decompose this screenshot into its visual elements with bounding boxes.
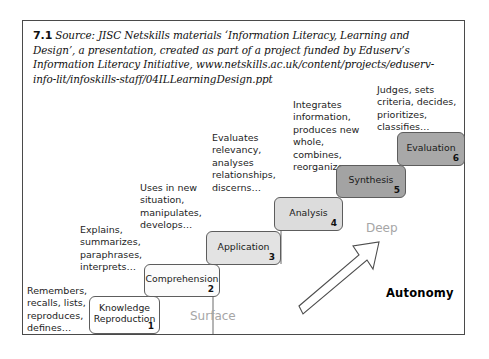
blooms-taxonomy-staircase-diagram: Remembers, recalls, lists, reproduces, d… <box>23 21 466 336</box>
step-box-synthesis[interactable]: Synthesis 5 <box>336 165 406 198</box>
step-number-4: 4 <box>331 218 337 229</box>
figure-frame: 7.1Source: JISC Netskills materials ‘Inf… <box>22 20 465 335</box>
step-label-application: Application <box>218 241 270 252</box>
step-label-comprehension: Comprehension <box>146 273 219 284</box>
region-label-surface: Surface <box>190 309 236 323</box>
step-number-5: 5 <box>394 185 400 196</box>
step-number-2: 2 <box>208 284 214 295</box>
step-number-6: 6 <box>453 153 459 164</box>
step-box-application[interactable]: Application 3 <box>206 231 281 265</box>
step-label-synthesis: Synthesis <box>349 174 394 185</box>
step-number-3: 3 <box>269 252 275 263</box>
autonomy-arrow-icon <box>295 236 395 321</box>
step-number-1: 1 <box>148 321 154 332</box>
step-box-comprehension[interactable]: Comprehension 2 <box>144 264 220 297</box>
region-label-deep: Deep <box>366 221 398 235</box>
step-box-knowledge-reproduction[interactable]: Knowledge Reproduction 1 <box>89 296 160 334</box>
step-box-analysis[interactable]: Analysis 4 <box>274 197 343 231</box>
step-label-analysis: Analysis <box>289 207 327 218</box>
step-label-evaluation: Evaluation <box>406 142 455 153</box>
step-box-evaluation[interactable]: Evaluation 6 <box>397 132 465 166</box>
autonomy-label: Autonomy <box>386 286 454 300</box>
step-label-knowledge-reproduction: Knowledge Reproduction <box>94 302 156 324</box>
